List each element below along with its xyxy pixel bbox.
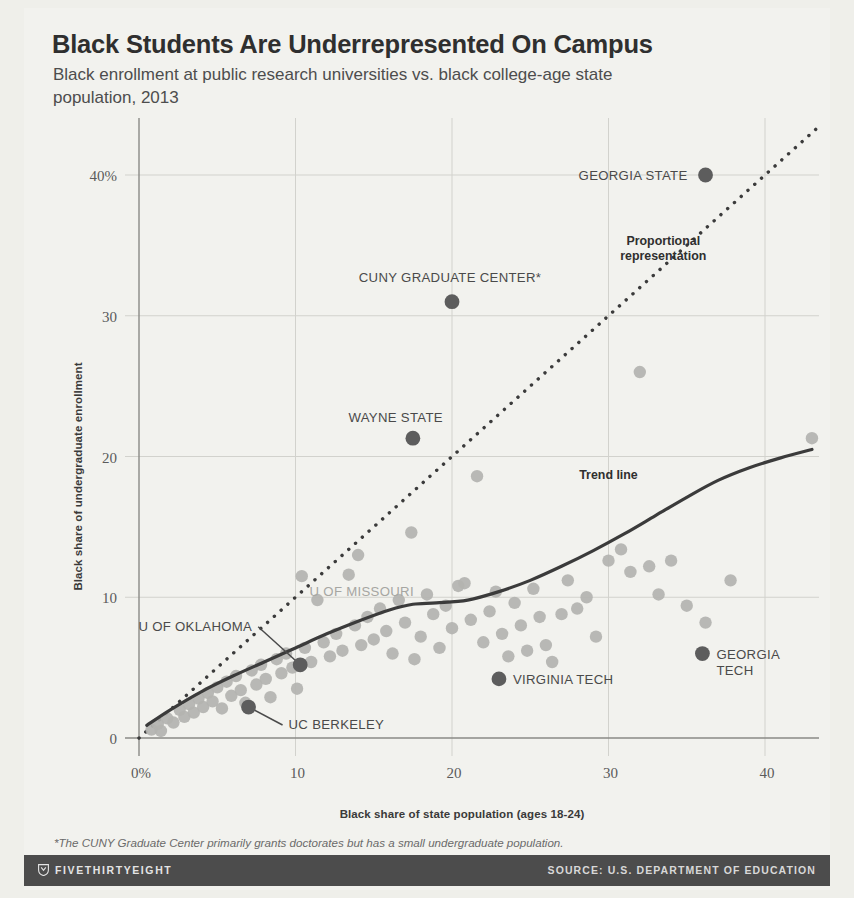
brand-block: FIVETHIRTYEIGHT [38,864,172,876]
data-point [291,683,303,695]
data-point [235,684,247,696]
data-point [580,591,592,603]
data-point [260,673,272,685]
footnote: *The CUNY Graduate Center primarily gran… [54,836,804,849]
data-point [502,650,514,662]
data-point [155,725,167,737]
data-point [533,611,545,623]
data-point [555,608,567,620]
brand-label: FIVETHIRTYEIGHT [55,864,172,876]
data-point [458,577,470,589]
highlighted-point [445,294,460,309]
data-point [483,605,495,617]
x-tick-label-0: 0% [131,765,151,781]
data-point [275,667,287,679]
data-point [405,526,417,538]
highlighted-point [695,646,710,661]
data-point [496,628,508,640]
chart-annotations: ProportionalrepresentationTrend line [579,234,706,482]
footer-bar: FIVETHIRTYEIGHT SOURCE: U.S. DEPARTMENT … [24,855,830,886]
data-point [471,470,483,482]
point-label: WAYNE STATE [348,410,442,425]
scatter-plot: 010203040%0%10203040 GEORGIA STATECUNY G… [24,8,830,890]
data-point [724,574,736,586]
data-point [386,647,398,659]
axis-lines [125,118,819,756]
data-point [427,608,439,620]
data-point [433,642,445,654]
data-point [408,653,420,665]
data-point [421,588,433,600]
data-point [264,691,276,703]
highlighted-point [293,657,308,672]
data-point [465,614,477,626]
y-tick-label-10: 10 [102,590,117,606]
data-point [368,633,380,645]
highlighted-point [241,700,256,715]
point-label: VIRGINIA TECH [513,672,613,687]
data-point [515,619,527,631]
data-point [665,554,677,566]
trend-line-label: Trend line [579,468,638,482]
data-point [571,602,583,614]
data-point [508,597,520,609]
data-point [399,616,411,628]
point-label: UC BERKELEY [289,717,385,732]
data-points [145,366,818,737]
data-point [343,569,355,581]
chart-page: Black Students Are Underrepresented On C… [0,0,854,898]
source-label: SOURCE: U.S. DEPARTMENT OF EDUCATION [548,864,816,876]
point-label: U OF OKLAHOMA [138,619,252,634]
data-point [380,625,392,637]
trend-line-path [147,449,812,725]
y-tick-label-40: 40% [90,168,118,184]
shield-icon [38,864,49,876]
y-tick-label-20: 20 [102,450,117,466]
data-point [446,622,458,634]
data-point [602,554,614,566]
x-tick-label-10: 10 [290,765,305,781]
data-point [324,650,336,662]
x-tick-label-20: 20 [447,765,462,781]
highlighted-point [405,431,420,446]
data-point [681,599,693,611]
data-point [699,616,711,628]
data-point [527,583,539,595]
data-point [540,639,552,651]
data-point [477,636,489,648]
data-point [521,645,533,657]
data-point [562,574,574,586]
y-tick-label-30: 30 [102,309,117,325]
data-point [615,543,627,555]
data-point [652,588,664,600]
x-tick-label-30: 30 [603,765,618,781]
data-point [216,702,228,714]
y-tick-label-0: 0 [110,731,118,747]
chart-card: Black Students Are Underrepresented On C… [24,8,830,890]
data-point [296,570,308,582]
data-point [806,432,818,444]
data-point [355,639,367,651]
x-axis-title: Black share of state population (ages 18… [340,808,585,820]
trend-line [147,449,812,725]
data-point [624,566,636,578]
callout-leader-lines [249,627,301,725]
point-label: GEORGIATECH [716,647,780,678]
highlighted-point [492,671,507,686]
grid-lines [125,118,819,756]
data-point [352,549,364,561]
data-point [546,656,558,668]
data-point [590,630,602,642]
data-point [167,716,179,728]
data-point [634,366,646,378]
highlighted-point [698,168,713,183]
point-label: CUNY GRADUATE CENTER* [359,270,541,285]
x-tick-label-40: 40 [760,765,775,781]
data-point [336,645,348,657]
proportional-representation: Proportionalrepresentation [620,234,706,263]
data-point [415,630,427,642]
y-axis-title: Black share of undergraduate enrollment [72,362,84,590]
gray-point-label: U OF MISSOURI [310,584,414,599]
point-label: GEORGIA STATE [579,168,688,183]
data-point [643,560,655,572]
